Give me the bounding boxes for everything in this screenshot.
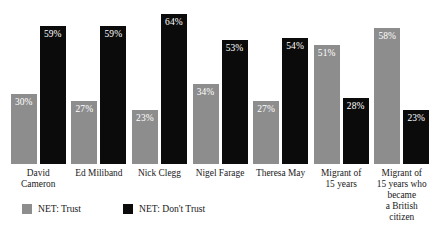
category-label: Migrant of15 years who becamea British c… (371, 168, 432, 223)
bar-value-label: 27% (71, 104, 97, 114)
bar-value-label: 27% (253, 104, 279, 114)
chart-legend: NET: Trust NET: Don't Trust (0, 203, 438, 214)
category-label: Ed Miliband (69, 168, 130, 223)
bar-value-label: 58% (374, 31, 400, 41)
category-label: David Cameron (8, 168, 69, 223)
legend-swatch-icon (123, 204, 133, 214)
legend-label: NET: Trust (38, 203, 81, 214)
bar-value-label: 54% (282, 41, 308, 51)
bar-distrust: 54% (282, 38, 308, 165)
bar-trust: 23% (132, 110, 158, 164)
category-label: Nick Clegg (129, 168, 190, 223)
bar-value-label: 64% (161, 17, 187, 27)
bar-group: 27% 59% (69, 0, 130, 164)
bar-value-label: 53% (222, 43, 248, 53)
category-label: Migrant of15 years (311, 168, 372, 223)
bar-trust: 27% (253, 101, 279, 164)
bar-value-label: 51% (314, 48, 340, 58)
bar-trust: 51% (314, 45, 340, 164)
bar-group: 34% 53% (190, 0, 251, 164)
bar-trust: 58% (374, 28, 400, 164)
plot-area: 30% 59% 27% 59% 23% 64% (0, 0, 438, 164)
bar-value-label: 28% (343, 101, 369, 111)
bar-distrust: 28% (343, 98, 369, 164)
bar-group: 23% 64% (129, 0, 190, 164)
bar-distrust: 59% (100, 26, 126, 164)
bar-group: 58% 23% (371, 0, 432, 164)
bar-distrust: 64% (161, 14, 187, 164)
category-axis-labels: David Cameron Ed Miliband Nick Clegg Nig… (8, 168, 432, 223)
category-label: Theresa May (250, 168, 311, 223)
bar-value-label: 34% (193, 87, 219, 97)
bar-trust: 30% (11, 94, 37, 164)
category-label: Nigel Farage (190, 168, 251, 223)
legend-item-trust: NET: Trust (22, 203, 81, 214)
bar-distrust: 59% (40, 26, 66, 164)
bar-group: 27% 54% (250, 0, 311, 164)
bar-value-label: 59% (100, 29, 126, 39)
bar-value-label: 23% (132, 113, 158, 123)
bar-trust: 34% (193, 84, 219, 164)
legend-swatch-icon (22, 204, 32, 214)
bar-group: 30% 59% (8, 0, 69, 164)
legend-item-distrust: NET: Don't Trust (123, 203, 205, 214)
bar-value-label: 23% (403, 113, 429, 123)
bar-distrust: 23% (403, 110, 429, 164)
grouped-bar-chart: 30% 59% 27% 59% 23% 64% (0, 0, 438, 230)
bar-group: 51% 28% (311, 0, 372, 164)
bar-distrust: 53% (222, 40, 248, 164)
legend-label: NET: Don't Trust (139, 203, 205, 214)
bar-groups: 30% 59% 27% 59% 23% 64% (8, 0, 432, 164)
bar-trust: 27% (71, 101, 97, 164)
bar-value-label: 30% (11, 97, 37, 107)
bar-value-label: 59% (40, 29, 66, 39)
